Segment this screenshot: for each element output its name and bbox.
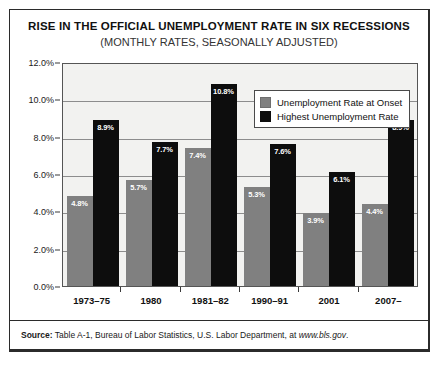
bar: 8.9% [388,120,414,286]
bar: 5.3% [244,187,270,286]
x-tick-marks [62,287,418,292]
y-tick-label: 12.0% [28,58,54,68]
bar: 7.6% [270,144,296,286]
source-label: Source: [21,330,53,340]
x-tick-mark [299,287,358,292]
source-note: Source: Table A-1, Bureau of Labor Stati… [21,330,348,340]
bar-value-label: 7.6% [270,147,296,156]
y-tick-mark [55,100,60,101]
y-tick-mark [55,212,60,213]
bar-value-label: 7.4% [185,151,211,160]
x-tick-mark [121,287,180,292]
y-tick-label: 6.0% [33,170,54,180]
bar: 4.4% [362,204,388,286]
bar-value-label: 7.7% [152,145,178,154]
bar-value-label: 8.9% [93,123,119,132]
y-tick-label: 8.0% [33,133,54,143]
bar: 4.8% [67,196,93,286]
y-tick-mark [55,249,60,250]
x-axis-label: 1973–75 [62,295,121,306]
legend-label: Highest Unemployment Rate [277,111,398,122]
y-tick-mark [55,287,60,288]
bar-value-label: 10.8% [211,87,237,96]
source-text: Table A-1, Bureau of Labor Statistics, U… [53,330,299,340]
x-axis: 1973–7519801981–821990–9120012007– [62,287,418,313]
y-tick-mark [55,175,60,176]
bar-group: 5.7%7.7% [122,64,181,286]
bar-value-label: 6.1% [329,175,355,184]
x-axis-label: 2007– [359,295,418,306]
y-tick-label: 0.0% [33,282,54,292]
bar: 7.4% [185,148,211,286]
source-divider [10,320,428,321]
legend-label: Unemployment Rate at Onset [277,97,402,108]
bar: 3.9% [303,213,329,286]
chart-legend: Unemployment Rate at OnsetHighest Unempl… [254,90,410,128]
x-axis-label: 1981–82 [181,295,240,306]
legend-item[interactable]: Unemployment Rate at Onset [260,95,402,109]
bar-value-label: 4.4% [362,207,388,216]
source-period: . [346,330,348,340]
legend-item[interactable]: Highest Unemployment Rate [260,109,402,123]
bar: 10.8% [211,84,237,286]
y-tick-label: 10.0% [28,95,54,105]
x-axis-labels: 1973–7519801981–821990–9120012007– [62,295,418,306]
bar-value-label: 5.3% [244,190,270,199]
bar-value-label: 5.7% [126,183,152,192]
figure-frame: RISE IN THE OFFICIAL UNEMPLOYMENT RATE I… [9,9,430,352]
y-tick-label: 2.0% [33,245,54,255]
legend-swatch-icon [260,97,271,108]
bar-group: 4.8%8.9% [63,64,122,286]
y-tick-label: 4.0% [33,207,54,217]
bar: 6.1% [329,172,355,286]
title-block: RISE IN THE OFFICIAL UNEMPLOYMENT RATE I… [10,19,428,50]
y-tick-mark [55,63,60,64]
bar: 7.7% [152,142,178,286]
bar: 8.9% [93,120,119,286]
bar-value-label: 3.9% [303,216,329,225]
bar-value-label: 4.8% [67,199,93,208]
chart-subtitle: (MONTHLY RATES, SEASONALLY ADJUSTED) [10,35,428,50]
y-axis: 0.0%2.0%4.0%6.0%8.0%10.0%12.0% [22,63,60,287]
x-tick-mark [359,287,418,292]
bar-group: 7.4%10.8% [181,64,240,286]
legend-swatch-icon [260,111,271,122]
chart-title: RISE IN THE OFFICIAL UNEMPLOYMENT RATE I… [10,19,428,34]
x-axis-label: 1980 [121,295,180,306]
bar: 5.7% [126,180,152,286]
plot-wrap: 0.0%2.0%4.0%6.0%8.0%10.0%12.0% 4.8%8.9%5… [22,63,418,313]
x-tick-mark [181,287,240,292]
x-tick-mark [240,287,299,292]
source-website[interactable]: www.bls.gov [299,330,346,340]
x-tick-mark [62,287,121,292]
x-axis-label: 2001 [299,295,358,306]
x-axis-label: 1990–91 [240,295,299,306]
y-tick-mark [55,137,60,138]
